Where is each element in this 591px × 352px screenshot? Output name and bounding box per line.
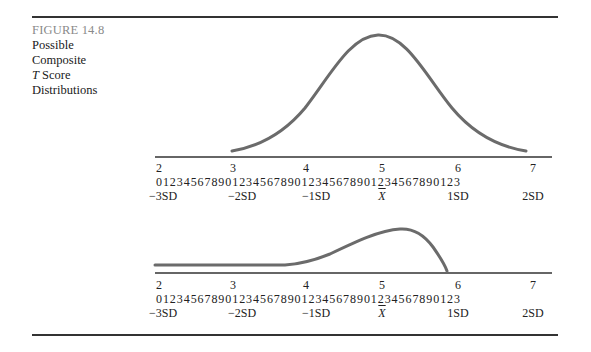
sd-label: 1SD [447, 306, 468, 321]
sd-label: 1SD [447, 189, 468, 204]
sd-label: −2SD [228, 306, 256, 321]
skewed-curve [155, 229, 447, 271]
sd-label: −3SD [149, 306, 177, 321]
tens-label: 5 [379, 278, 385, 293]
tens-label: 3 [230, 278, 236, 293]
sd-label: −1SD [302, 306, 330, 321]
tens-label: 4 [303, 161, 309, 176]
normal-curve [232, 35, 526, 151]
mean-label: X [378, 306, 385, 321]
tens-label: 4 [303, 278, 309, 293]
tens-label: 6 [455, 278, 461, 293]
tens-label: 5 [379, 161, 385, 176]
tens-label: 2 [156, 161, 162, 176]
tens-label: 7 [530, 278, 536, 293]
sd-label: −2SD [228, 189, 256, 204]
sd-label: 2SD [522, 306, 543, 321]
tens-label: 6 [455, 161, 461, 176]
units-digit-row: 0123456789012345678901234567890123456789… [156, 292, 461, 307]
sd-label: −3SD [149, 189, 177, 204]
tens-label: 2 [156, 278, 162, 293]
tens-label: 7 [530, 161, 536, 176]
sd-label: 2SD [522, 189, 543, 204]
mean-label: X [378, 189, 385, 204]
tens-label: 3 [230, 161, 236, 176]
units-digit-row: 0123456789012345678901234567890123456789… [156, 175, 461, 190]
sd-label: −1SD [302, 189, 330, 204]
